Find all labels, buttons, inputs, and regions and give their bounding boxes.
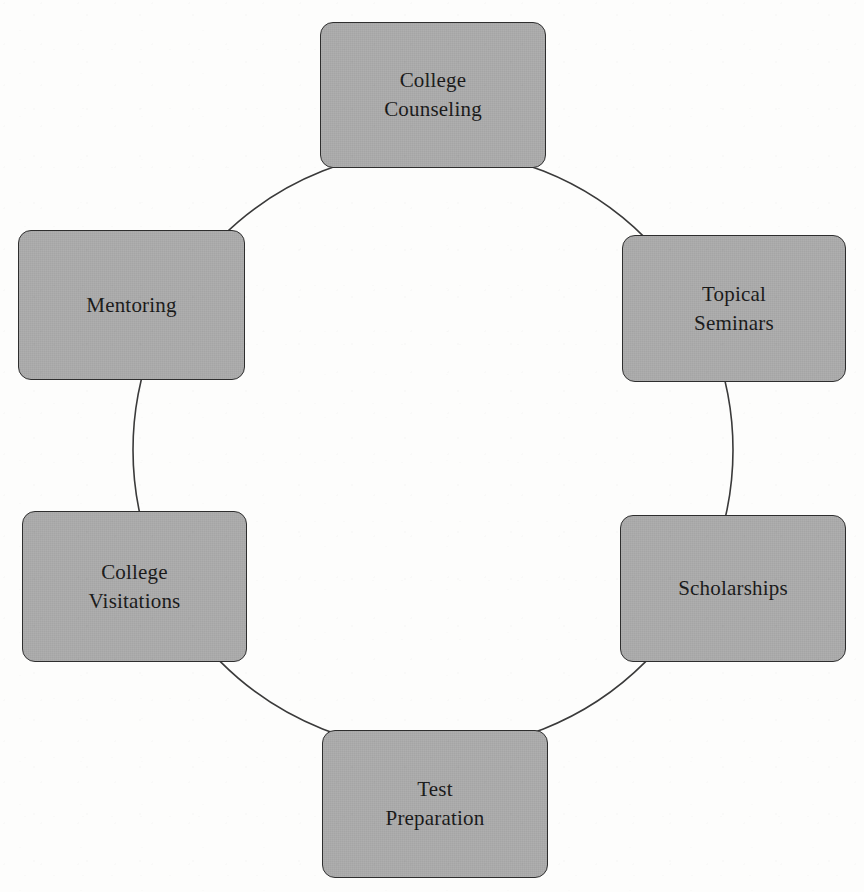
node-mentoring[interactable]: Mentoring [18, 230, 245, 380]
node-test-preparation[interactable]: Test Preparation [322, 730, 548, 878]
diagram-canvas: College Counseling Topical Seminars Scho… [0, 0, 864, 892]
node-college-counseling[interactable]: College Counseling [320, 22, 546, 168]
node-label-college-visitations: College Visitations [79, 558, 191, 616]
node-label-mentoring: Mentoring [76, 291, 186, 320]
node-topical-seminars[interactable]: Topical Seminars [622, 235, 846, 382]
node-label-topical-seminars: Topical Seminars [684, 280, 784, 338]
node-label-scholarships: Scholarships [668, 574, 798, 603]
node-college-visitations[interactable]: College Visitations [22, 511, 247, 662]
node-label-college-counseling: College Counseling [374, 66, 492, 124]
node-scholarships[interactable]: Scholarships [620, 515, 846, 662]
node-label-test-preparation: Test Preparation [376, 775, 495, 833]
